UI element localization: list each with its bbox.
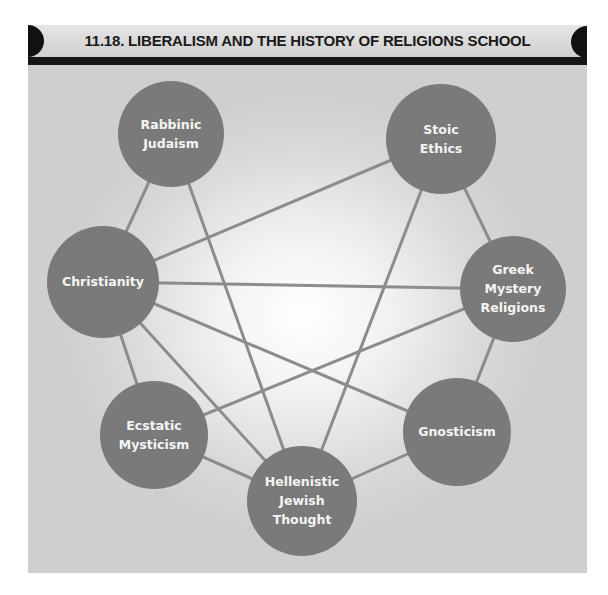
node-rabbinic: RabbinicJudaism: [118, 81, 224, 187]
node-stoic: StoicEthics: [386, 84, 496, 194]
node-hellenistic: HellenisticJewishThought: [247, 446, 357, 556]
node-circle: [118, 81, 224, 187]
node-label: Ethics: [420, 141, 463, 156]
node-circle: [386, 84, 496, 194]
node-label: Religions: [481, 300, 546, 315]
node-label: Christianity: [62, 274, 144, 289]
edge-christianity-greek: [103, 282, 513, 289]
node-label: Thought: [273, 512, 332, 527]
node-ecstatic: EcstaticMysticism: [100, 381, 208, 489]
node-label: Greek: [492, 262, 534, 277]
node-label: Ecstatic: [126, 418, 181, 433]
node-greek: GreekMysteryReligions: [460, 236, 566, 342]
node-label: Judaism: [142, 136, 199, 151]
node-label: Gnosticism: [418, 424, 496, 439]
node-circle: [100, 381, 208, 489]
relationship-diagram: RabbinicJudaismStoicEthicsChristianityGr…: [0, 0, 608, 595]
node-label: Mystery: [485, 281, 542, 296]
node-label: Hellenistic: [265, 474, 339, 489]
node-gnosticism: Gnosticism: [403, 378, 511, 486]
node-label: Stoic: [423, 122, 458, 137]
nodes-group: RabbinicJudaismStoicEthicsChristianityGr…: [47, 81, 566, 556]
node-label: Jewish: [278, 493, 324, 508]
node-christianity: Christianity: [47, 226, 159, 338]
node-label: Rabbinic: [141, 117, 202, 132]
node-label: Mysticism: [119, 437, 189, 452]
